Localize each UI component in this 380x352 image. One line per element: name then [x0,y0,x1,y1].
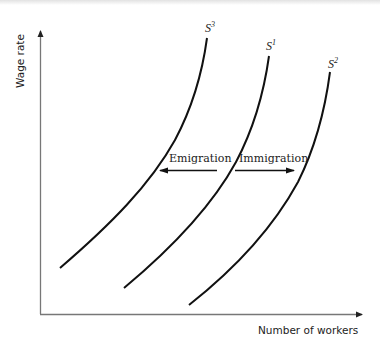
curve-label-s1: S1 [266,38,276,53]
emigration-label: Emigration [169,152,231,165]
y-axis-label: Wage rate [14,34,26,88]
x-axis-label: Number of workers [258,324,358,336]
supply-curve-s2 [189,72,330,305]
curve-label-s3: S3 [205,20,215,35]
immigration-label: Immigration [239,152,308,165]
supply-curve-s1 [124,56,269,288]
curve-label-s2: S2 [328,56,338,71]
labor-supply-diagram: Wage rate Number of workers S3 S1 S2 Emi… [0,0,380,352]
